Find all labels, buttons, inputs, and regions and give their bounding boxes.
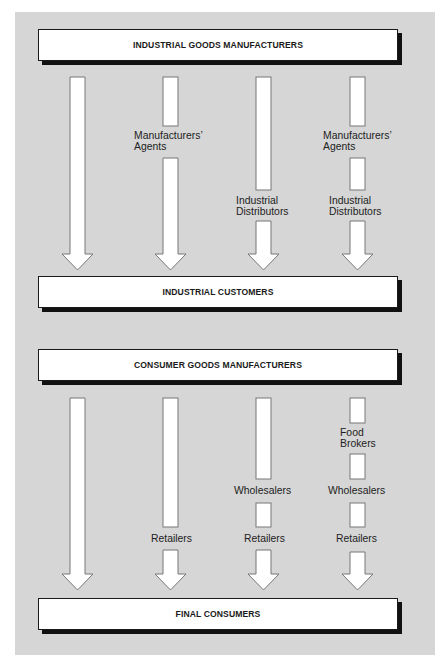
industrial-goods-manufacturers-label: INDUSTRIAL GOODS MANUFACTURERS xyxy=(133,40,303,50)
consumer-ch4-food-brokers-label: Food Brokers xyxy=(340,427,376,449)
industrial-channel-4-arrow xyxy=(342,77,373,270)
consumer-goods-manufacturers-label: CONSUMER GOODS MANUFACTURERS xyxy=(134,360,302,370)
consumer-channel-2-arrow xyxy=(155,398,186,590)
final-consumers-box: FINAL CONSUMERS xyxy=(38,598,398,630)
industrial-ch4-distributors-label: Industrial Distributors xyxy=(329,195,382,217)
industrial-channel-1-arrow xyxy=(62,77,93,270)
industrial-channel-2-arrow xyxy=(155,77,186,270)
industrial-ch2-agents-label: Manufacturers’ Agents xyxy=(134,130,203,152)
consumer-ch4-wholesalers-label: Wholesalers xyxy=(328,485,385,496)
consumer-channel-1-arrow xyxy=(62,398,93,590)
industrial-customers-box: INDUSTRIAL CUSTOMERS xyxy=(38,276,398,308)
industrial-goods-manufacturers-box: INDUSTRIAL GOODS MANUFACTURERS xyxy=(38,29,398,61)
channel-arrows xyxy=(0,0,445,665)
consumer-ch3-wholesalers-label: Wholesalers xyxy=(234,485,291,496)
consumer-ch4-retailers-label: Retailers xyxy=(336,533,377,544)
consumer-ch3-retailers-label: Retailers xyxy=(244,533,285,544)
industrial-ch4-agents-label: Manufacturers’ Agents xyxy=(323,130,392,152)
industrial-ch3-distributors-label: Industrial Distributors xyxy=(236,195,289,217)
final-consumers-label: FINAL CONSUMERS xyxy=(176,609,261,619)
consumer-goods-manufacturers-box: CONSUMER GOODS MANUFACTURERS xyxy=(38,349,398,381)
consumer-ch2-retailers-label: Retailers xyxy=(151,533,192,544)
industrial-channel-3-arrow xyxy=(248,77,279,270)
industrial-customers-label: INDUSTRIAL CUSTOMERS xyxy=(162,287,273,297)
